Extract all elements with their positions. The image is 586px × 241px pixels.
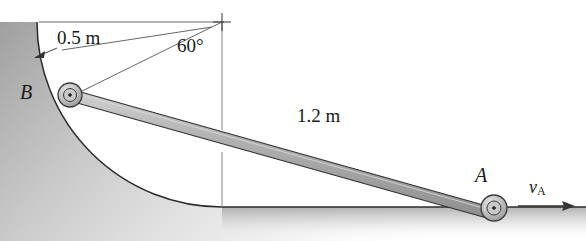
point-label-a: A [475, 165, 487, 185]
rod-length-label: 1.2 m [297, 106, 340, 125]
figure-canvas: 0.5 m 60° 1.2 m B A vA [0, 0, 586, 241]
velocity-subscript: A [537, 184, 546, 198]
point-label-b: B [20, 82, 32, 102]
roller-b [58, 83, 82, 107]
angle-dimension-label: 60° [177, 36, 204, 55]
velocity-label: vA [529, 178, 546, 197]
roller-a [481, 195, 507, 221]
radius-dimension-label: 0.5 m [57, 28, 100, 47]
velocity-symbol: v [529, 177, 537, 197]
